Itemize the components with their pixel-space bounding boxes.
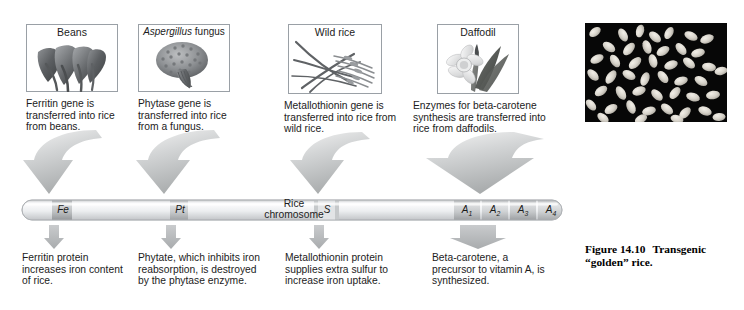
gene-label-fe: Fe — [52, 204, 74, 215]
source-panel-beans: Beans — [26, 24, 118, 92]
gene-label-a1: A1 — [455, 204, 479, 217]
chromosome-label-line1: Rice — [284, 198, 305, 209]
gene-sub-a1: 1 — [468, 210, 472, 217]
gene-label-pt: Pt — [169, 204, 191, 215]
transfer-arrow-beta-carotene — [418, 130, 548, 200]
gene-sub-a4: 4 — [552, 210, 556, 217]
gene-label-a3: A3 — [511, 204, 535, 217]
source-panel-aspergillus: Aspergillus fungus — [138, 24, 230, 92]
source-panel-daffodil: Daffodil — [437, 24, 519, 94]
result-arrow-metallothionin — [308, 225, 330, 249]
panel-title-daffodil: Daffodil — [437, 26, 519, 38]
fungus-illustration-icon — [138, 38, 230, 90]
figure-transgenic-golden-rice: Beans — [0, 0, 744, 310]
transfer-arrow-metallothionin — [284, 130, 380, 200]
result-arrow-phytate — [160, 225, 182, 249]
gene-label-a2: A2 — [483, 204, 507, 217]
gene-text-pt: Pt — [175, 204, 184, 215]
chromosome-label-line2: chromosome — [264, 209, 324, 220]
gene-text-s: S — [324, 204, 331, 215]
panel-title-genus: Aspergillus — [143, 26, 192, 37]
rice-chromosome: Rice chromosome Fe Pt S A1 A2 A3 A4 — [20, 196, 564, 224]
result-caption-beta-carotene: Beta-carotene, a precursor to vitamin A,… — [432, 252, 552, 287]
gene-text-fe: Fe — [57, 204, 69, 215]
beans-illustration-icon — [26, 38, 118, 90]
gene-label-a4: A4 — [539, 204, 563, 217]
wild-rice-illustration-icon — [288, 38, 382, 92]
result-caption-metallothionin: Metallothionin protein supplies extra su… — [285, 252, 411, 287]
panel-title-common: fungus — [192, 26, 225, 37]
result-caption-phytate: Phytate, which inhibits iron reabsorptio… — [138, 252, 268, 287]
result-caption-ferritin: Ferritin protein increases iron content … — [22, 252, 126, 287]
panel-title-beans: Beans — [26, 26, 118, 38]
daffodil-illustration-icon — [437, 38, 519, 92]
result-arrow-beta-carotene — [448, 225, 508, 249]
source-panel-wild-rice: Wild rice — [288, 24, 382, 94]
transfer-arrow-ferritin — [22, 128, 108, 200]
figure-caption: Figure 14.10Transgenic “golden” rice. — [585, 243, 740, 269]
gene-sub-a3: 3 — [524, 210, 528, 217]
gene-sub-a2: 2 — [496, 210, 500, 217]
panel-title-aspergillus: Aspergillus fungus — [138, 26, 230, 38]
figure-number: Figure 14.10 — [585, 243, 646, 255]
gene-label-s: S — [317, 204, 337, 215]
transfer-arrow-phytase — [128, 128, 224, 200]
result-arrow-ferritin — [43, 225, 65, 249]
golden-rice-photograph — [585, 23, 727, 122]
panel-title-wild-rice: Wild rice — [288, 26, 382, 38]
